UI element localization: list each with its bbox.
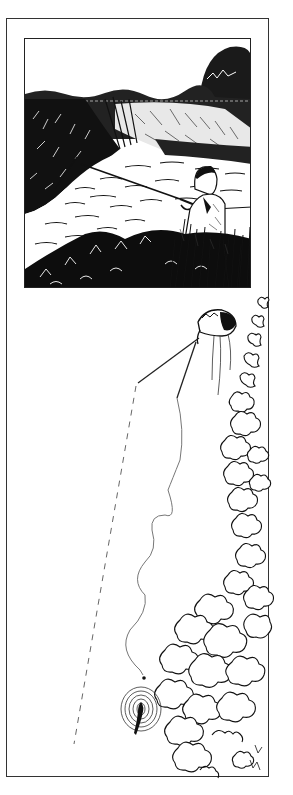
dashed-line — [74, 386, 136, 744]
bankside-bushes — [155, 297, 274, 778]
casting-diagram-svg — [0, 288, 293, 795]
angler-figure — [197, 310, 236, 395]
fish — [134, 702, 143, 735]
casting-diagram — [0, 288, 293, 795]
river-scene-svg — [25, 39, 251, 288]
wavy-slack-line — [126, 398, 182, 675]
fly — [142, 676, 146, 680]
river-scene-illustration — [24, 38, 251, 288]
